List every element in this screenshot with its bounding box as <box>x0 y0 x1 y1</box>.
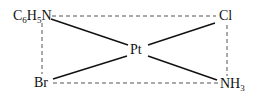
atom-nh: NH <box>220 76 240 91</box>
ligand-pyridine-label: C6H5N <box>13 9 52 23</box>
atom-c: C <box>13 8 22 23</box>
bond-n-pt <box>51 19 128 45</box>
ligand-ammonia-label: NH3 <box>220 77 245 91</box>
subscript-3: 3 <box>240 83 245 93</box>
coordination-complex-diagram: C6H5N Cl Pt Br NH3 <box>0 0 262 97</box>
atom-h: H <box>27 8 37 23</box>
center-platinum-label: Pt <box>130 43 142 57</box>
atom-n: N <box>41 8 51 23</box>
ligand-bromide-label: Br <box>34 76 48 90</box>
bond-br-pt <box>53 56 127 79</box>
ligand-chloride-label: Cl <box>219 9 232 23</box>
bond-pt-nh3 <box>148 56 217 80</box>
bond-pt-cl <box>148 23 215 45</box>
